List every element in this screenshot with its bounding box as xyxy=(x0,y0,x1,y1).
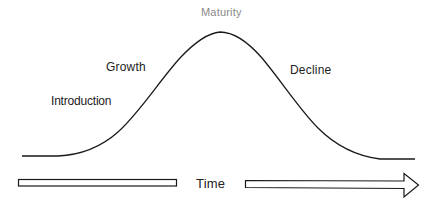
stage-label-maturity: Maturity xyxy=(201,6,242,18)
time-axis-label: Time xyxy=(196,176,225,191)
time-bar-left xyxy=(19,180,177,187)
time-arrow-right xyxy=(246,174,419,198)
stage-label-decline: Decline xyxy=(290,63,331,77)
product-life-cycle-diagram: Maturity Growth Introduction Decline Tim… xyxy=(0,0,437,210)
stage-label-growth: Growth xyxy=(106,60,146,74)
stage-label-introduction: Introduction xyxy=(51,94,111,108)
